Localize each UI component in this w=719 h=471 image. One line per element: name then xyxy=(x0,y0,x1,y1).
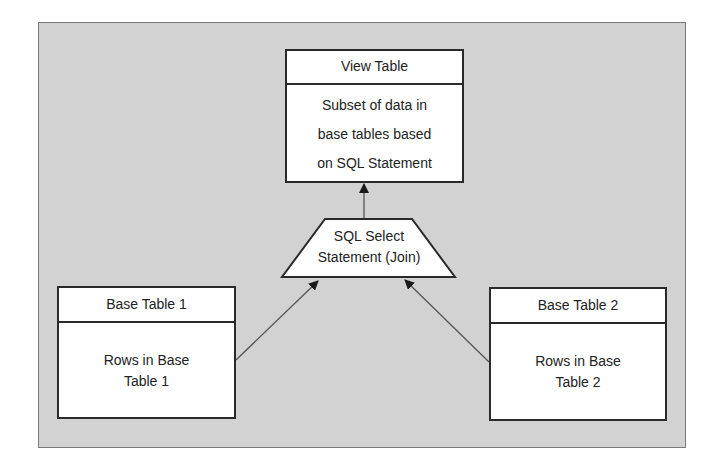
base-table-1-description: Rows in Base Table 1 xyxy=(59,323,234,392)
sql-line-2: Statement (Join) xyxy=(300,247,438,268)
view-table-description: Subset of data in base tables based on S… xyxy=(287,85,462,178)
base-table-1-line-2: Table 1 xyxy=(59,371,234,392)
sql-line-1: SQL Select xyxy=(300,226,438,247)
base-table-2-line-1: Rows in Base xyxy=(491,351,665,372)
base-table-2-title: Base Table 2 xyxy=(491,289,665,324)
sql-select-statement-label: SQL Select Statement (Join) xyxy=(300,226,438,268)
base-table-2-line-2: Table 2 xyxy=(491,372,665,393)
base-table-2-description: Rows in Base Table 2 xyxy=(491,324,665,393)
base-table-1-box: Base Table 1 Rows in Base Table 1 xyxy=(57,286,236,419)
view-table-box: View Table Subset of data in base tables… xyxy=(285,49,464,183)
view-table-title: View Table xyxy=(287,51,462,85)
base-table-1-title: Base Table 1 xyxy=(59,288,234,323)
view-table-line-2: base tables based xyxy=(287,120,462,149)
view-table-line-1: Subset of data in xyxy=(287,91,462,120)
view-table-line-3: on SQL Statement xyxy=(287,149,462,178)
base-table-2-box: Base Table 2 Rows in Base Table 2 xyxy=(489,287,667,421)
base-table-1-line-1: Rows in Base xyxy=(59,350,234,371)
